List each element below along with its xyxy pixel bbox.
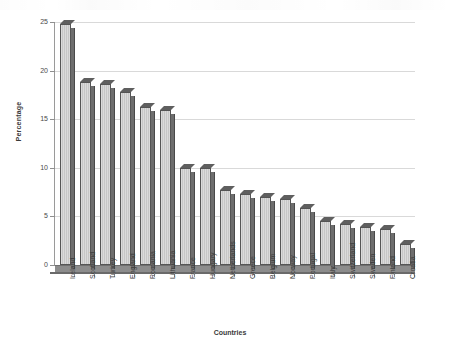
bar-front-face (180, 168, 191, 265)
x-axis-category-label: Sweden (369, 254, 376, 279)
x-axis-category-label: Portugal (309, 253, 316, 279)
x-axis-category-label: Ireland (69, 258, 76, 279)
bar (60, 24, 71, 265)
bar (320, 221, 331, 265)
x-axis-category-label: Switzerland (349, 243, 356, 279)
bar (160, 110, 171, 265)
bar (80, 82, 91, 265)
x-axis-category-label: Finland (389, 256, 396, 279)
x-axis-title: Countries (150, 329, 310, 336)
bar-side-face (171, 114, 175, 269)
bar-side-face (91, 86, 95, 269)
bar-side-face (111, 88, 115, 269)
bar (240, 194, 251, 265)
bar (120, 92, 131, 265)
bar-front-face (240, 194, 251, 265)
x-axis-category-label: England (129, 253, 136, 279)
bar-front-face (100, 84, 111, 265)
x-axis-category-label: Turkey (109, 258, 116, 279)
bar-front-face (60, 24, 71, 265)
x-axis-category-label: Italy (329, 266, 336, 279)
bar-front-face (160, 110, 171, 265)
bar-side-face (131, 96, 135, 269)
bar (140, 107, 151, 265)
x-axis-category-label: Lithuania (169, 251, 176, 279)
x-axis-category-label: Scotland (89, 252, 96, 279)
bar-side-face (71, 28, 75, 269)
bar-side-face (331, 225, 335, 269)
x-axis-category-label: France (189, 257, 196, 279)
x-axis-category-label: Norway (289, 255, 296, 279)
bar-side-face (191, 172, 195, 269)
bar (100, 84, 111, 265)
bar-front-face (320, 221, 331, 265)
x-axis-category-label: Croatia (409, 256, 416, 279)
bar-front-face (120, 92, 131, 265)
bar-front-face (200, 168, 211, 265)
bar (180, 168, 191, 265)
x-axis-category-label: Netherlands (229, 241, 236, 279)
x-axis-category-label: Hungary (209, 253, 216, 279)
x-axis-category-label: Greece (249, 256, 256, 279)
bar-front-face (80, 82, 91, 265)
x-axis-category-label: Romania (149, 251, 156, 279)
x-axis-category-label: Belgium (269, 254, 276, 279)
bars-layer (0, 0, 450, 352)
bar-front-face (140, 107, 151, 265)
bar-chart: Percentage 0510152025 IrelandScotlandTur… (0, 0, 450, 352)
bar (200, 168, 211, 265)
bar-side-face (151, 111, 155, 269)
